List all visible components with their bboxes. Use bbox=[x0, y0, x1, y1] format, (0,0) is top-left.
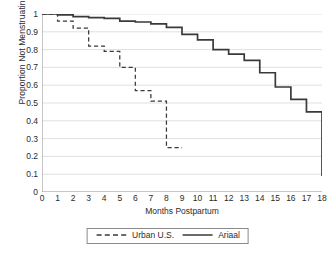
survival-curve-plot bbox=[42, 14, 322, 192]
y-tick-label: 0.5 bbox=[12, 98, 38, 108]
x-tick-label: 8 bbox=[164, 193, 169, 203]
gridlines bbox=[42, 14, 322, 174]
y-tick-label: 0.3 bbox=[12, 134, 38, 144]
legend-label-urban-us: Urban U.S. bbox=[132, 231, 174, 240]
y-tick-label: 0.9 bbox=[12, 27, 38, 37]
y-tick-label: 0.1 bbox=[12, 169, 38, 179]
x-tick-label: 9 bbox=[180, 193, 185, 203]
series-line-ariaal bbox=[42, 14, 322, 176]
y-tick-label: 1 bbox=[12, 9, 38, 19]
chart-legend: Urban U.S. Ariaal bbox=[86, 228, 249, 244]
x-tick-label: 14 bbox=[255, 193, 264, 203]
x-tick-label: 4 bbox=[102, 193, 107, 203]
x-tick-label: 18 bbox=[317, 193, 326, 203]
x-tick-label: 1 bbox=[55, 193, 60, 203]
x-tick-label: 2 bbox=[71, 193, 76, 203]
legend-item-ariaal: Ariaal bbox=[181, 231, 240, 240]
x-tick-label: 3 bbox=[86, 193, 91, 203]
legend-item-urban-us: Urban U.S. bbox=[95, 231, 174, 240]
data-series bbox=[42, 14, 322, 176]
y-tick-label: 0.8 bbox=[12, 45, 38, 55]
legend-swatch-dashed bbox=[95, 231, 127, 239]
y-tick-label: 0 bbox=[12, 187, 38, 197]
y-tick-label: 0.4 bbox=[12, 116, 38, 126]
series-line-urban-u-s bbox=[42, 14, 182, 148]
legend-label-ariaal: Ariaal bbox=[218, 231, 240, 240]
x-tick-label: 15 bbox=[271, 193, 280, 203]
x-tick-label: 5 bbox=[117, 193, 122, 203]
x-axis-title: Months Postpartum bbox=[42, 206, 322, 216]
x-tick-label: 6 bbox=[133, 193, 138, 203]
x-tick-label: 0 bbox=[40, 193, 45, 203]
y-tick-label: 0.6 bbox=[12, 80, 38, 90]
x-tick-label: 16 bbox=[286, 193, 295, 203]
x-tick-label: 10 bbox=[193, 193, 202, 203]
x-tick-label: 7 bbox=[149, 193, 154, 203]
chart-figure: Proportion Not Menstruating 00.10.20.30.… bbox=[0, 0, 335, 254]
y-tick-label: 0.2 bbox=[12, 151, 38, 161]
x-tick-label: 12 bbox=[224, 193, 233, 203]
x-tick-label: 17 bbox=[302, 193, 311, 203]
x-tick-label: 11 bbox=[209, 193, 218, 203]
x-axis-tick-labels: 0123456789101112131415161718 bbox=[42, 193, 322, 207]
plot-area bbox=[42, 14, 322, 192]
legend-swatch-solid bbox=[181, 231, 213, 239]
y-tick-label: 0.7 bbox=[12, 62, 38, 72]
x-tick-label: 13 bbox=[239, 193, 248, 203]
